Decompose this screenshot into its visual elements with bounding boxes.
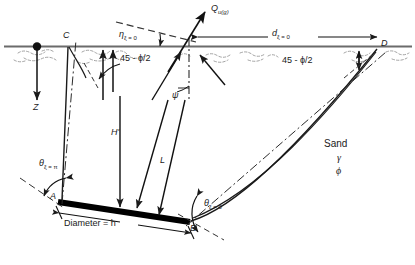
psi-angle-label: ψ (172, 91, 179, 100)
point-a-label: A (50, 192, 56, 201)
failure-surface-left (62, 47, 68, 200)
wedge-angle-left-arrow (99, 64, 120, 79)
unit-weight-label: γ (337, 153, 341, 163)
depth-axis-z (33, 42, 41, 100)
theta-zero-label: θξ = 0 (204, 199, 222, 210)
uplift-load-symbol: Q (211, 3, 218, 13)
point-d-label: D (381, 39, 388, 48)
failure-surface-right (191, 49, 377, 221)
eta-label: ηξ = 0 (119, 30, 137, 41)
uplift-load-label: Qu(g) (211, 4, 229, 15)
left-wedge-arrows (103, 50, 113, 100)
wedge-angle-right-label: 45 - ϕ/2 (282, 56, 313, 65)
theta-pi-reference-line (20, 178, 64, 208)
anchor-normal-centerline (62, 40, 76, 204)
left-wedge-dashed-plane (84, 63, 98, 88)
anchor-length-label: L (160, 156, 165, 165)
eta-subscript: ξ = 0 (124, 35, 137, 41)
point-b-label: B (190, 224, 196, 233)
d-dimension-label: dξ = 0 (272, 29, 290, 40)
eta-angle-arc (160, 34, 161, 46)
soil-material-label: Sand (324, 139, 347, 149)
point-c-label: C (63, 31, 70, 40)
uplift-capacity-diagram: Z C D A B Qu(g) ηξ = 0 dξ = 0 45 - ϕ/2 4… (0, 0, 415, 265)
d-subscript: ξ = 0 (277, 34, 290, 40)
soil-hatching (14, 50, 409, 64)
wedge-angle-left-label: 45 - ϕ/2 (120, 54, 151, 63)
theta-pi-label: θξ = π (39, 159, 58, 170)
theta-zero-subscript: ξ = 0 (209, 204, 222, 210)
diameter-label: Diameter = h (64, 219, 116, 228)
embedment-depth-label: H' (111, 128, 119, 137)
failure-surface-right-upper (193, 52, 376, 218)
right-arrow-to-surface (200, 55, 225, 85)
theta-pi-subscript: ξ = π (44, 164, 58, 170)
depth-axis-label: Z (33, 103, 39, 112)
diameter-text: Diameter = h (64, 218, 116, 228)
friction-angle-label: ϕ (336, 166, 341, 176)
uplift-load-subscript: u(g) (218, 9, 229, 15)
